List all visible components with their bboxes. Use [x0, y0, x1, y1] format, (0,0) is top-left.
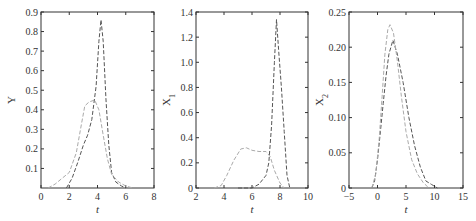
y-tick-label: 0.25	[329, 7, 347, 18]
y-tick-label: 0.8	[26, 26, 39, 37]
y-tick-label: 0.7	[26, 46, 39, 57]
y-tick-label: 0.6	[26, 65, 39, 76]
y-tick-label: 0.3	[26, 124, 39, 135]
data-series-line	[238, 20, 290, 189]
x-tick-label: 10	[303, 191, 313, 202]
x-tick-label: 2	[67, 191, 72, 202]
x-tick-label: 15	[458, 191, 468, 202]
data-series-line	[372, 25, 429, 188]
x-tick-label: 0	[39, 191, 44, 202]
x-axis-label: t	[404, 203, 408, 215]
data-series-line	[48, 100, 133, 188]
x-axis-label: t	[250, 203, 254, 215]
axes-frame	[196, 12, 308, 188]
x-tick-label: 0	[375, 191, 380, 202]
y-axis-label: X1	[160, 94, 177, 106]
y-tick-label: 1.4	[181, 7, 194, 18]
y-tick-label: 0.15	[329, 77, 347, 88]
x-tick-label: 8	[278, 191, 283, 202]
axes-frame	[41, 12, 154, 188]
chart-canvas: 024680.10.20.30.40.50.60.70.80.9tY 24681…	[0, 0, 476, 221]
plot-x1: 24681000.20.40.60.81.01.21.4tX1	[160, 7, 313, 216]
x-axis-label: t	[96, 203, 100, 215]
plot-y: 024680.10.20.30.40.50.60.70.80.9tY	[5, 7, 157, 216]
data-series-line	[214, 148, 284, 188]
y-tick-label: 0.10	[329, 112, 347, 123]
y-tick-label: 1.2	[181, 32, 194, 43]
x-tick-label: 5	[404, 191, 409, 202]
y-tick-label: 0	[188, 183, 193, 194]
y-tick-label: 0.6	[181, 107, 194, 118]
y-tick-label: 0.5	[26, 85, 39, 96]
y-tick-label: 0.05	[329, 147, 347, 158]
y-tick-label: 0.2	[26, 143, 39, 154]
y-tick-label: 1.0	[181, 57, 194, 68]
y-tick-label: 0.8	[181, 82, 194, 93]
x-tick-label: 10	[430, 191, 440, 202]
x-tick-label: 2	[194, 191, 199, 202]
y-tick-label: 0.4	[26, 104, 39, 115]
y-axis-label: X2	[313, 94, 330, 106]
x-tick-label: 4	[95, 191, 100, 202]
y-tick-label: 0.4	[181, 132, 194, 143]
x-tick-label: 4	[222, 191, 227, 202]
x-tick-label: 8	[152, 191, 157, 202]
x-tick-label: 6	[123, 191, 128, 202]
y-tick-label: 0.1	[26, 163, 39, 174]
y-axis-label: Y	[5, 96, 17, 104]
y-tick-label: 0.9	[26, 7, 39, 18]
y-tick-label: 0.2	[181, 157, 194, 168]
data-series-line	[372, 40, 438, 188]
y-tick-label: 0	[341, 183, 346, 194]
x-tick-label: 6	[250, 191, 255, 202]
y-tick-label: 0.20	[329, 42, 347, 53]
plot-x2: −505101500.050.100.150.200.25tX2	[313, 7, 468, 216]
